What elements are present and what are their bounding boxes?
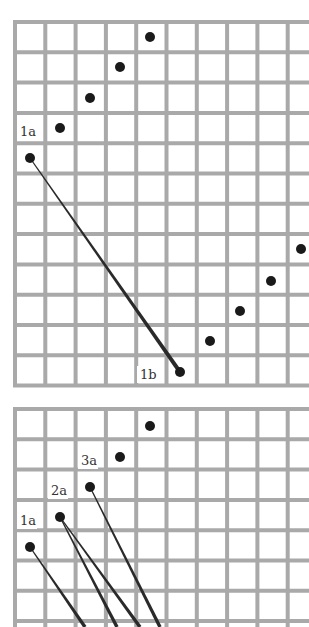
dot-marker <box>115 452 125 462</box>
point-label: 1a <box>20 124 36 139</box>
dot-marker <box>55 123 65 133</box>
dot-marker <box>145 421 155 431</box>
point-label: 1b <box>140 367 157 382</box>
dot-marker <box>205 336 215 346</box>
point-label: 1a <box>20 513 36 528</box>
diagram-canvas: 1a1b3a2a1a <box>0 0 309 627</box>
dot-marker <box>25 153 35 163</box>
connecting-stroke <box>59 517 118 627</box>
dot-marker <box>175 367 185 377</box>
panel-bottom: 3a2a1a <box>13 409 309 627</box>
dot-marker <box>145 32 155 42</box>
dot-marker <box>55 512 65 522</box>
dot-marker <box>235 306 245 316</box>
point-label: 2a <box>51 483 67 498</box>
grid <box>13 22 309 386</box>
dot-marker <box>85 482 95 492</box>
panel-top: 1a1b <box>13 22 309 386</box>
dot-marker <box>115 62 125 72</box>
dot-marker <box>25 542 35 552</box>
dot-marker <box>266 276 276 286</box>
dot-marker <box>296 244 306 254</box>
dot-marker <box>85 93 95 103</box>
point-label: 3a <box>81 453 97 468</box>
